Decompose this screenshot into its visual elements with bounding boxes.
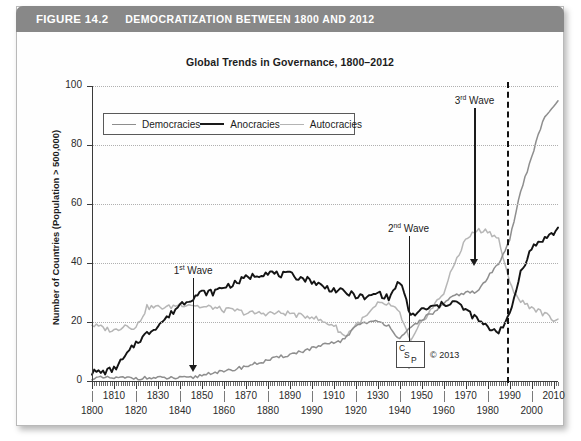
xtick-label-1820: 1820	[125, 405, 147, 416]
xtick-1984	[496, 382, 497, 386]
xtick-1937	[393, 382, 394, 386]
xtick-1996	[523, 382, 524, 386]
xtick-1987	[503, 382, 504, 386]
xtick-1946	[413, 382, 414, 386]
xtick-1867	[239, 382, 240, 386]
event-line-1989	[507, 82, 509, 383]
xtick-2010	[554, 382, 555, 389]
xtick-1845	[191, 382, 192, 386]
xtick-1821	[138, 382, 139, 386]
xtick-1836	[171, 382, 172, 386]
xtick-1957	[437, 382, 438, 386]
legend-swatch-autocracies	[280, 124, 304, 125]
xtick-1976	[479, 382, 480, 386]
xtick-1884	[277, 382, 278, 386]
xtick-1943	[406, 382, 407, 386]
gridline-y-40	[92, 263, 558, 264]
xtick-1823	[143, 382, 144, 386]
xtick-1854	[211, 382, 212, 386]
xtick-1844	[189, 382, 190, 386]
xtick-1915	[345, 382, 346, 386]
xtick-1873	[252, 382, 253, 386]
legend-label-democracies: Democracies	[142, 119, 200, 130]
xtick-separator-3	[224, 391, 225, 402]
xtick-1906	[325, 382, 326, 386]
chart-plot-area: Number of Countries (Population > 500,00…	[0, 0, 581, 441]
legend-label-autocracies: Autocracies	[310, 119, 362, 130]
xtick-1992	[514, 382, 515, 386]
xtick-1882	[272, 382, 273, 386]
xtick-1865	[235, 382, 236, 386]
xtick-1983	[494, 382, 495, 386]
xtick-1990	[510, 382, 511, 389]
xtick-1933	[384, 382, 385, 386]
xtick-1924	[365, 382, 366, 386]
xtick-1885	[279, 382, 280, 386]
xtick-2004	[540, 382, 541, 386]
xtick-1918	[351, 382, 352, 386]
xtick-1940	[400, 382, 401, 389]
xtick-1980	[488, 382, 489, 389]
xtick-1859	[222, 382, 223, 386]
xtick-1971	[468, 382, 469, 386]
xtick-1965	[455, 382, 456, 386]
xtick-1998	[527, 382, 528, 386]
xtick-1923	[362, 382, 363, 386]
xtick-1869	[244, 382, 245, 386]
ytick-label-0: 0	[50, 374, 82, 385]
xtick-1828	[154, 382, 155, 386]
xtick-1833	[165, 382, 166, 386]
xtick-1981	[490, 382, 491, 386]
xtick-1847	[195, 382, 196, 386]
xtick-1811	[116, 382, 117, 386]
xtick-1889	[288, 382, 289, 386]
xtick-1945	[411, 382, 412, 386]
xtick-label-1940: 1940	[389, 405, 411, 416]
xtick-1860	[224, 382, 225, 389]
xtick-separator-5	[312, 391, 313, 402]
xtick-1934	[387, 382, 388, 386]
xtick-separator-2	[180, 391, 181, 402]
xtick-1886	[281, 382, 282, 386]
wave3-label: 3rd Wave	[455, 94, 495, 106]
xtick-1916	[347, 382, 348, 386]
xtick-2012	[558, 382, 559, 386]
xtick-1892	[294, 382, 295, 386]
xtick-label-1810: 1810	[103, 390, 125, 401]
xtick-1848	[198, 382, 199, 386]
xtick-1948	[417, 382, 418, 386]
xtick-1975	[477, 382, 478, 386]
xtick-1805	[103, 382, 104, 386]
xtick-separator-6	[356, 391, 357, 402]
xtick-1999	[529, 382, 530, 386]
xtick-1908	[329, 382, 330, 386]
xtick-label-2000: 2000	[520, 405, 542, 416]
legend-item-autocracies: Autocracies	[280, 119, 362, 130]
xtick-1871	[248, 382, 249, 386]
xtick-1832	[162, 382, 163, 386]
xtick-1808	[110, 382, 111, 386]
xtick-1841	[182, 382, 183, 386]
xtick-1864	[233, 382, 234, 386]
xtick-1969	[463, 382, 464, 386]
xtick-1922	[360, 382, 361, 386]
xtick-1962	[448, 382, 449, 386]
xtick-1901	[314, 382, 315, 386]
xtick-1856	[215, 382, 216, 386]
xtick-1907	[327, 382, 328, 386]
xtick-1942	[404, 382, 405, 386]
xtick-2011	[556, 382, 557, 386]
xtick-1939	[398, 382, 399, 386]
xtick-1921	[358, 382, 359, 386]
xtick-1875	[257, 382, 258, 386]
xtick-1961	[446, 382, 447, 386]
ytick-label-20: 20	[50, 315, 82, 326]
xtick-1802	[96, 382, 97, 386]
ytick-label-100: 100	[50, 79, 82, 90]
xtick-1812	[118, 382, 119, 386]
xtick-1838	[176, 382, 177, 386]
xtick-1815	[125, 382, 126, 386]
xtick-separator-10	[532, 391, 533, 402]
chart-legend: Democracies Anocracies Autocracies	[103, 113, 355, 135]
xtick-1866	[237, 382, 238, 386]
